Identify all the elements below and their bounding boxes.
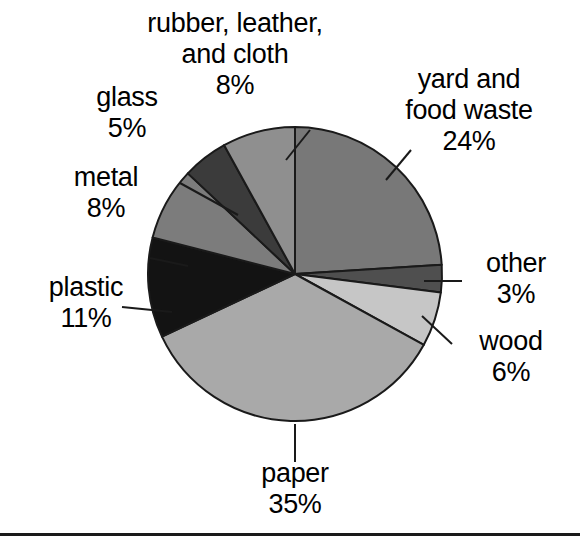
slice-label-rubber-line1: rubber, leather, <box>130 8 340 39</box>
slice-label-glass-name: glass <box>62 82 192 113</box>
slice-label-plastic: plastic 11% <box>16 272 156 334</box>
slice-label-yard-value: 24% <box>394 126 544 157</box>
slice-label-plastic-name: plastic <box>16 272 156 303</box>
slice-label-other-value: 3% <box>466 279 566 310</box>
slice-label-paper-name: paper <box>232 458 358 489</box>
slice-label-rubber-line2: and cloth <box>130 39 340 70</box>
slice-label-plastic-value: 11% <box>16 303 156 334</box>
slice-label-metal: metal 8% <box>40 162 172 224</box>
slice-label-glass-value: 5% <box>62 113 192 144</box>
slice-label-glass: glass 5% <box>62 82 192 144</box>
slice-label-yard-line2: food waste <box>394 95 544 126</box>
bottom-rule-divider <box>0 533 580 536</box>
pie-chart-figure: rubber, leather, and cloth 8% glass 5% m… <box>0 0 580 548</box>
slice-label-wood-name: wood <box>456 326 566 357</box>
slice-label-metal-value: 8% <box>40 193 172 224</box>
slice-label-wood: wood 6% <box>456 326 566 388</box>
slice-label-yard-food-waste: yard and food waste 24% <box>394 64 544 157</box>
pie-slices-group <box>148 127 442 421</box>
slice-label-metal-name: metal <box>40 162 172 193</box>
slice-label-wood-value: 6% <box>456 357 566 388</box>
slice-label-yard-line1: yard and <box>394 64 544 95</box>
slice-label-paper-value: 35% <box>232 489 358 520</box>
slice-label-other-name: other <box>466 248 566 279</box>
slice-label-other: other 3% <box>466 248 566 310</box>
slice-label-paper: paper 35% <box>232 458 358 520</box>
